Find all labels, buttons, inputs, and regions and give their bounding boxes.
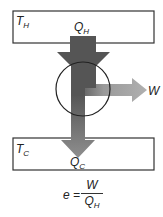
efficiency-lhs: e = xyxy=(63,188,80,202)
efficiency-equation: e = W QH xyxy=(60,179,110,211)
efficiency-fraction: W QH xyxy=(81,179,103,212)
work-label: W xyxy=(148,84,161,98)
efficiency-numerator: W xyxy=(81,179,103,192)
efficiency-denominator: QH xyxy=(81,195,103,212)
